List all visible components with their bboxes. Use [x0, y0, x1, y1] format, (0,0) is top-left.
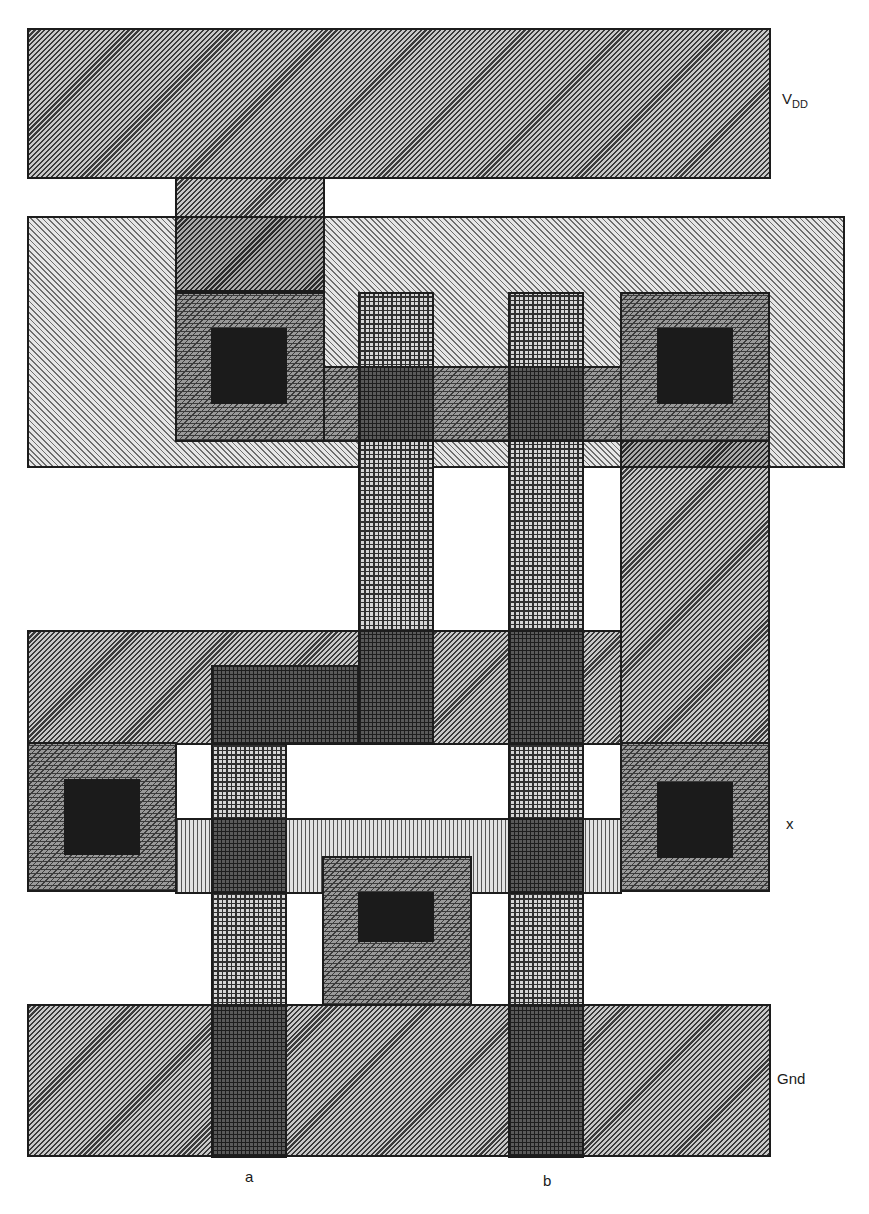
- poly-a-ndiff-overlap: [211, 818, 287, 894]
- poly-b-gnd-overlap: [508, 1004, 584, 1157]
- vdd-label-sub: DD: [792, 98, 808, 110]
- pmos-right-contact: [657, 328, 733, 404]
- vdd-label: VDD: [782, 90, 808, 110]
- vdd-strap-overlap: [175, 216, 325, 292]
- gnd-rail: [27, 1004, 771, 1157]
- poly-upper-metal-overlap: [358, 630, 434, 745]
- input-a-label: a: [245, 1168, 253, 1185]
- poly-b-ndiff-overlap: [508, 818, 584, 894]
- pmos-left-contact: [211, 328, 287, 404]
- poly-a-gnd-overlap: [211, 1004, 287, 1157]
- poly-b-pdiff-overlap: [508, 366, 584, 442]
- output-metal-vertical: [620, 466, 770, 746]
- vdd-rail: [27, 28, 771, 179]
- nmos-center-contact: [358, 892, 434, 942]
- input-b-label: b: [543, 1172, 551, 1189]
- gnd-label: Gnd: [777, 1070, 805, 1087]
- vdd-label-main: V: [782, 90, 792, 107]
- output-label: x: [786, 815, 794, 832]
- poly-b-metal-overlap: [508, 630, 584, 745]
- poly-upper-pdiff-overlap: [358, 366, 434, 442]
- output-contact: [657, 782, 733, 858]
- nmos-left-contact: [64, 779, 140, 855]
